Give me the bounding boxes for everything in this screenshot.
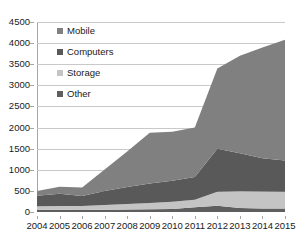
x-axis-tick: [172, 216, 173, 219]
y-axis-tick-label: 3000: [9, 80, 30, 90]
stacked-area-chart: 050010001500200025003000350040004500 200…: [0, 0, 299, 236]
x-axis-tick: [240, 216, 241, 219]
x-axis-tick: [262, 216, 263, 219]
x-axis-tick-label: 2005: [49, 220, 70, 232]
x-axis-tick: [285, 216, 286, 219]
y-axis-tick-label: 1000: [9, 165, 30, 175]
legend-item-computers[interactable]: Computers: [57, 47, 113, 57]
y-axis-tick-label: 500: [14, 186, 30, 196]
y-axis-tick: [30, 170, 34, 171]
x-axis-tick-label: 2012: [207, 220, 228, 232]
y-axis-tick: [30, 43, 34, 44]
y-axis-tick: [30, 85, 34, 86]
x-axis-tick-label: 2006: [72, 220, 93, 232]
legend-swatch-icon: [57, 49, 63, 55]
y-axis-tick-label: 2000: [9, 123, 30, 133]
y-axis-tick: [30, 149, 34, 150]
x-axis-tick: [105, 216, 106, 219]
x-axis-tick: [150, 216, 151, 219]
y-axis-tick-label: 3500: [9, 59, 30, 69]
x-axis-tick: [127, 216, 128, 219]
x-axis-tick-label: 2014: [252, 220, 273, 232]
legend-item-storage[interactable]: Storage: [57, 68, 113, 78]
legend-swatch-icon: [57, 91, 63, 97]
x-axis-tick-label: 2013: [229, 220, 250, 232]
x-axis-tick: [37, 216, 38, 219]
y-axis-tick-label: 4000: [9, 38, 30, 48]
y-axis-tick: [30, 106, 34, 107]
x-axis-tick: [195, 216, 196, 219]
x-axis-tick-label: 2011: [185, 220, 205, 232]
legend-label: Other: [67, 89, 91, 99]
x-axis-tick-label: 2004: [26, 220, 47, 232]
y-axis-tick: [30, 64, 34, 65]
x-axis-tick: [60, 216, 61, 219]
legend-label: Mobile: [67, 26, 95, 36]
y-axis-tick: [30, 128, 34, 129]
y-axis-tick-label: 1500: [9, 144, 30, 154]
x-axis-tick-label: 2008: [117, 220, 138, 232]
y-axis: 050010001500200025003000350040004500: [0, 0, 34, 236]
legend-label: Computers: [67, 47, 113, 57]
legend-label: Storage: [67, 68, 100, 78]
legend-item-other[interactable]: Other: [57, 89, 113, 99]
legend-swatch-icon: [57, 70, 63, 76]
y-axis-tick-label: 2500: [9, 101, 30, 111]
x-axis-tick-label: 2009: [139, 220, 160, 232]
y-axis-tick: [30, 212, 34, 213]
legend-swatch-icon: [57, 28, 63, 34]
y-axis-tick: [30, 22, 34, 23]
x-axis-tick-label: 2010: [162, 220, 183, 232]
chart-legend: MobileComputersStorageOther: [57, 26, 113, 99]
x-axis: 2004200520062007200820092010201120122013…: [37, 216, 285, 234]
x-axis-tick: [82, 216, 83, 219]
y-axis-tick-label: 4500: [9, 17, 30, 27]
y-axis-tick: [30, 191, 34, 192]
legend-item-mobile[interactable]: Mobile: [57, 26, 113, 36]
x-axis-tick-label: 2015: [274, 220, 295, 232]
x-axis-tick-label: 2007: [94, 220, 115, 232]
x-axis-tick: [217, 216, 218, 219]
